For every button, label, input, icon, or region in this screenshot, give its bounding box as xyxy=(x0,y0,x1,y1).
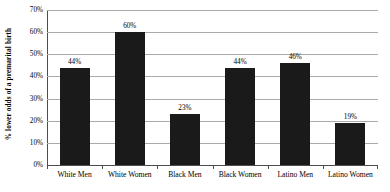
bar-value-label: 23% xyxy=(178,104,191,112)
x-axis-category-label: Latino Men xyxy=(277,170,313,179)
y-axis-title-text: % lower odds of a premarital birth xyxy=(5,28,13,140)
x-axis-tick xyxy=(377,165,378,169)
bar-value-label: 19% xyxy=(344,113,357,121)
x-axis-tick xyxy=(213,165,214,169)
bar-group: 44% xyxy=(47,10,102,165)
x-axis-tick xyxy=(268,165,269,169)
bar-group: 19% xyxy=(323,10,378,165)
y-axis-tick-label: 30% xyxy=(30,95,43,103)
bar-group: 46% xyxy=(268,10,323,165)
x-axis-category-label: Black Men xyxy=(168,170,202,179)
bar-group: 23% xyxy=(157,10,212,165)
x-axis-ticks xyxy=(47,165,378,169)
bar-value-label: 44% xyxy=(68,58,81,66)
x-axis-tick xyxy=(157,165,158,169)
x-axis-category-label: White Women xyxy=(108,170,152,179)
bars: 44%60%23%44%46%19% xyxy=(47,10,378,165)
x-axis-category-label: Latino Women xyxy=(328,170,373,179)
y-axis-tick-label: 20% xyxy=(30,117,43,125)
bar xyxy=(335,123,365,165)
y-axis-tick-label: 10% xyxy=(30,139,43,147)
bar-value-label: 60% xyxy=(123,22,136,30)
plot-area: 44%60%23%44%46%19% xyxy=(47,10,378,165)
y-axis-tick-label: 0% xyxy=(33,161,43,169)
bar xyxy=(115,32,145,165)
x-axis-category-label: Black Women xyxy=(219,170,262,179)
x-axis-category-label: White Men xyxy=(57,170,91,179)
bar-value-label: 46% xyxy=(289,53,302,61)
bar-group: 60% xyxy=(102,10,157,165)
y-axis-title: % lower odds of a premarital birth xyxy=(0,0,18,168)
bar-chart: % lower odds of a premarital birth 70%60… xyxy=(0,0,390,192)
bar-group: 44% xyxy=(213,10,268,165)
bar xyxy=(225,68,255,165)
y-axis-tick-labels: 70%60%50%40%30%20%10%0% xyxy=(18,0,46,168)
x-axis-tick xyxy=(323,165,324,169)
y-axis-tick-label: 60% xyxy=(30,28,43,36)
x-axis-tick xyxy=(47,165,48,169)
x-axis-labels: White MenWhite WomenBlack MenBlack Women… xyxy=(47,170,378,188)
y-axis-tick-label: 70% xyxy=(30,6,43,14)
bar xyxy=(280,63,310,165)
bar xyxy=(60,68,90,165)
x-axis-tick xyxy=(102,165,103,169)
y-axis-tick-label: 40% xyxy=(30,72,43,80)
bar xyxy=(170,114,200,165)
y-axis-tick-label: 50% xyxy=(30,50,43,58)
bar-value-label: 44% xyxy=(233,58,246,66)
